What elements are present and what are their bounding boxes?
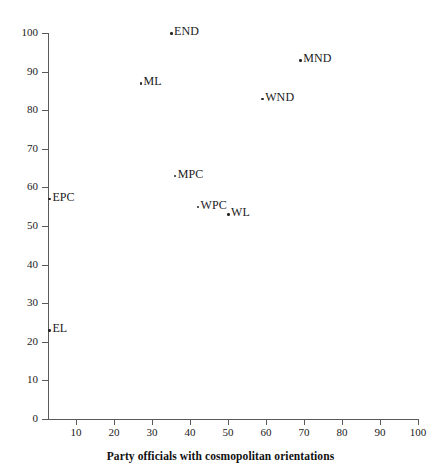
y-tick-label-wrap: 40: [0, 259, 38, 270]
y-tick-mark: [42, 72, 48, 73]
x-tick-label: 40: [170, 426, 210, 438]
x-tick-label: 30: [132, 426, 172, 438]
plot-area: 0102030405060708090100 10203040506070809…: [0, 0, 441, 475]
data-point-marker: [227, 213, 230, 216]
data-point-label: WL: [231, 206, 250, 218]
x-axis-line: [48, 419, 419, 420]
x-tick-mark: [380, 419, 381, 425]
y-tick-label-wrap: 30: [0, 297, 38, 308]
y-tick-mark: [42, 187, 48, 188]
x-tick-label: 60: [246, 426, 286, 438]
data-point-label: MND: [303, 52, 331, 64]
y-tick-mark: [42, 149, 48, 150]
x-axis-title: Party officials with cosmopolitan orient…: [0, 450, 441, 462]
data-point-label: ML: [144, 75, 162, 87]
data-point-label: EL: [52, 322, 67, 334]
y-tick-label-wrap: 20: [0, 336, 38, 347]
y-tick-label: 50: [4, 220, 38, 231]
y-tick-label-wrap: 70: [0, 143, 38, 154]
x-tick-mark: [228, 419, 229, 425]
y-tick-mark: [42, 303, 48, 304]
y-tick-mark: [42, 110, 48, 111]
data-point-marker: [174, 175, 177, 178]
y-tick-mark: [42, 265, 48, 266]
x-tick-mark: [266, 419, 267, 425]
y-tick-label: 80: [4, 104, 38, 115]
data-point-marker: [48, 329, 51, 332]
x-tick-mark: [342, 419, 343, 425]
y-tick-label-wrap: 50: [0, 220, 38, 231]
x-tick-mark: [418, 419, 419, 425]
x-tick-label: 90: [360, 426, 400, 438]
y-tick-label-wrap: 10: [0, 374, 38, 385]
x-tick-label: 100: [398, 426, 438, 438]
x-tick-label: 70: [284, 426, 324, 438]
data-point-marker: [197, 206, 200, 209]
y-tick-label-wrap: 60: [0, 181, 38, 192]
y-tick-label-wrap: 100: [0, 27, 38, 38]
x-tick-mark: [114, 419, 115, 425]
y-tick-label-wrap: 0: [0, 413, 38, 424]
data-point-label: WPC: [201, 199, 227, 211]
y-tick-label: 40: [4, 259, 38, 270]
x-tick-mark: [190, 419, 191, 425]
y-tick-label: 20: [4, 336, 38, 347]
y-tick-mark: [42, 33, 48, 34]
y-tick-label: 0: [4, 413, 38, 424]
x-tick-label: 10: [56, 426, 96, 438]
data-point-label: MPC: [178, 168, 204, 180]
y-tick-mark: [42, 419, 48, 420]
data-point-marker: [261, 98, 264, 101]
data-point-label: EPC: [52, 191, 74, 203]
y-tick-label: 100: [4, 27, 38, 38]
scatter-chart: 0102030405060708090100 10203040506070809…: [0, 0, 441, 475]
y-tick-label: 10: [4, 374, 38, 385]
x-tick-mark: [76, 419, 77, 425]
data-point-marker: [140, 82, 143, 85]
y-tick-label: 30: [4, 297, 38, 308]
data-point-label: END: [174, 25, 199, 37]
data-point-marker: [299, 59, 302, 62]
y-tick-mark: [42, 226, 48, 227]
y-tick-mark: [42, 380, 48, 381]
y-tick-label: 90: [4, 66, 38, 77]
y-tick-mark: [42, 342, 48, 343]
x-tick-label: 50: [208, 426, 248, 438]
data-point-marker: [170, 32, 173, 35]
x-tick-label: 20: [94, 426, 134, 438]
x-tick-mark: [304, 419, 305, 425]
data-point-label: WND: [265, 91, 294, 103]
x-tick-label: 80: [322, 426, 362, 438]
y-axis-line: [48, 33, 49, 420]
x-tick-mark: [152, 419, 153, 425]
y-tick-label-wrap: 80: [0, 104, 38, 115]
y-tick-label-wrap: 90: [0, 66, 38, 77]
y-tick-label: 60: [4, 181, 38, 192]
y-tick-label: 70: [4, 143, 38, 154]
